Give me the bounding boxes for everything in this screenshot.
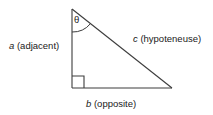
side-a-parenthetical: (adjacent) — [17, 40, 59, 51]
side-c-label: c (hypoteneuse) — [133, 34, 201, 44]
side-c-parenthetical: (hypoteneuse) — [140, 33, 201, 44]
triangle-diagram: θ a (adjacent) c (hypoteneuse) b (opposi… — [0, 0, 213, 115]
angle-theta-label: θ — [74, 15, 79, 25]
right-angle-marker — [72, 76, 84, 88]
side-b-label: b (opposite) — [86, 99, 136, 109]
side-c-hypotenuse-line — [72, 9, 172, 88]
side-b-parenthetical: (opposite) — [94, 98, 136, 109]
side-a-label: a (adjacent) — [9, 41, 59, 51]
